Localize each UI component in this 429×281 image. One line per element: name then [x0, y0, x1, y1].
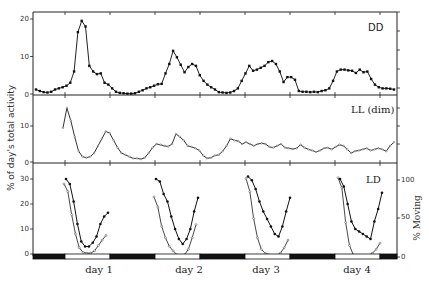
ld-tick-labels: 30 20 10 0	[20, 175, 29, 258]
ll-series	[62, 107, 395, 160]
dd-series	[35, 20, 395, 95]
ld-right-tick-0: 0	[401, 253, 405, 261]
panel-label-ll: LL (dim)	[351, 104, 394, 115]
ll-tick-0: 0	[25, 159, 29, 167]
ld-series	[63, 175, 383, 257]
y-axis-title-right: % Moving	[412, 195, 422, 241]
dd-tick-0: 0	[25, 91, 29, 99]
activity-figure: 20 10 0 10 0 30 20 10 0 100 50 0 % of da…	[0, 0, 429, 281]
dd-tick-10: 10	[20, 53, 29, 61]
ld-tick-0: 0	[25, 250, 29, 258]
ld-tick-20: 20	[20, 200, 29, 208]
ld-tick-10: 10	[20, 225, 29, 233]
day-label-1: day 1	[85, 264, 113, 275]
panel-label-ld: LD	[366, 174, 381, 185]
ll-tick-labels: 10 0	[20, 122, 29, 167]
photoperiod-bar	[33, 254, 397, 259]
day-label-2: day 2	[175, 264, 203, 275]
ll-tick-10: 10	[20, 122, 29, 130]
panel-label-dd: DD	[368, 22, 384, 33]
dd-tick-20: 20	[20, 15, 29, 23]
day-label-4: day 4	[343, 264, 371, 275]
ld-tick-30: 30	[20, 175, 29, 183]
dd-tick-labels: 20 10 0	[20, 15, 29, 99]
y-axis-title: % of day's total activity	[6, 84, 16, 191]
day-labels: day 1 day 2 day 3 day 4	[85, 264, 371, 275]
day-label-3: day 3	[252, 264, 280, 275]
y-tick-marks	[30, 12, 400, 257]
ld-right-tick-100: 100	[401, 176, 414, 184]
ld-right-tick-50: 50	[401, 213, 410, 221]
